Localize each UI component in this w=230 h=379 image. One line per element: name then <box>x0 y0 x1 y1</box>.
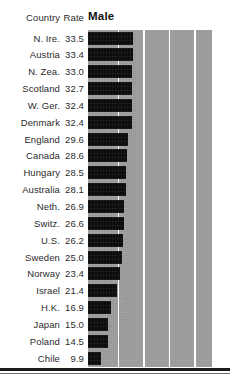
column-header-rate: Rate <box>62 12 84 23</box>
table-row: W. Ger.32.4 <box>0 97 86 114</box>
chart-page: Country Rate Male N. Ire.33.5Austria33.4… <box>0 0 230 379</box>
country-name: Denmark <box>0 117 60 128</box>
country-label-column: N. Ire.33.5Austria33.4N. Zea.33.0Scotlan… <box>0 30 86 370</box>
country-name: Japan <box>0 319 60 330</box>
bar-texture <box>88 99 132 112</box>
gridline-0 <box>118 30 120 367</box>
bar <box>88 335 108 348</box>
country-name: Sweden <box>0 252 60 263</box>
table-row: Japan15.0 <box>0 316 86 333</box>
country-name: Neth. <box>0 201 60 212</box>
rate-value: 21.4 <box>62 285 84 296</box>
gridline-3 <box>194 30 196 367</box>
bar <box>88 301 111 314</box>
country-name: U.S. <box>0 235 60 246</box>
bar <box>88 65 132 78</box>
bar <box>88 99 132 112</box>
table-row: England29.6 <box>0 131 86 148</box>
rate-value: 28.1 <box>62 184 84 195</box>
country-name: N. Ire. <box>0 33 60 44</box>
table-header: Country Rate Male <box>0 12 230 26</box>
country-name: Norway <box>0 268 60 279</box>
rate-value: 32.7 <box>62 83 84 94</box>
bar-texture <box>88 217 124 230</box>
column-header-country: Country <box>0 12 60 23</box>
bar <box>88 234 123 247</box>
bar-texture <box>88 234 123 247</box>
bar-texture <box>88 318 108 331</box>
table-row: H.K.16.9 <box>0 300 86 317</box>
table-row: Australia28.1 <box>0 182 86 199</box>
gridline-1 <box>143 30 145 367</box>
bar-texture <box>88 82 132 95</box>
bar <box>88 318 108 331</box>
rate-value: 26.9 <box>62 201 84 212</box>
bar-texture <box>88 251 122 264</box>
bar <box>88 48 133 61</box>
bar <box>88 133 128 146</box>
country-name: Chile <box>0 353 60 364</box>
bar <box>88 200 124 213</box>
table-row: N. Ire.33.5 <box>0 30 86 47</box>
rate-value: 33.4 <box>62 49 84 60</box>
table-row: Canada28.6 <box>0 148 86 165</box>
country-name: Australia <box>0 184 60 195</box>
rate-value: 14.5 <box>62 336 84 347</box>
chart-title-male: Male <box>88 10 114 22</box>
bar-texture <box>88 65 132 78</box>
bottom-divider <box>0 368 230 371</box>
rate-value: 28.6 <box>62 150 84 161</box>
country-name: W. Ger. <box>0 100 60 111</box>
rate-value: 32.4 <box>62 117 84 128</box>
bar-texture <box>88 335 108 348</box>
table-row: Switz.26.6 <box>0 215 86 232</box>
bar <box>88 82 132 95</box>
bar-texture <box>88 48 133 61</box>
rate-value: 28.5 <box>62 167 84 178</box>
table-row: Israel21.4 <box>0 283 86 300</box>
rate-value: 16.9 <box>62 302 84 313</box>
bar <box>88 352 101 365</box>
country-name: N. Zea. <box>0 66 60 77</box>
rate-value: 33.5 <box>62 33 84 44</box>
bar-texture <box>88 166 126 179</box>
gridline-2 <box>169 30 171 367</box>
bar-texture <box>88 149 127 162</box>
bar <box>88 267 120 280</box>
table-row: Poland14.5 <box>0 333 86 350</box>
country-name: Hungary <box>0 167 60 178</box>
rate-value: 32.4 <box>62 100 84 111</box>
country-name: Austria <box>0 49 60 60</box>
country-name: Israel <box>0 285 60 296</box>
panel-texture <box>88 30 212 367</box>
table-row: Chile9.9 <box>0 350 86 367</box>
bar-texture <box>88 32 133 45</box>
rate-value: 9.9 <box>62 353 84 364</box>
table-row: Austria33.4 <box>0 47 86 64</box>
rate-value: 25.0 <box>62 252 84 263</box>
table-row: U.S.26.2 <box>0 232 86 249</box>
bar-texture <box>88 301 111 314</box>
bar <box>88 149 127 162</box>
table-row: Sweden25.0 <box>0 249 86 266</box>
table-row: Denmark32.4 <box>0 114 86 131</box>
bar <box>88 183 126 196</box>
bar-texture <box>88 267 120 280</box>
rate-value: 15.0 <box>62 319 84 330</box>
table-row: N. Zea.33.0 <box>0 64 86 81</box>
bar <box>88 217 124 230</box>
bar <box>88 32 133 45</box>
rate-value: 33.0 <box>62 66 84 77</box>
rate-value: 29.6 <box>62 134 84 145</box>
bar-texture <box>88 352 101 365</box>
bar-chart-panel <box>88 30 212 367</box>
country-name: England <box>0 134 60 145</box>
bar <box>88 166 126 179</box>
country-name: Scotland <box>0 83 60 94</box>
rate-value: 26.6 <box>62 218 84 229</box>
panel-speckle <box>88 30 212 367</box>
bar <box>88 116 132 129</box>
rate-value: 23.4 <box>62 268 84 279</box>
country-name: Switz. <box>0 218 60 229</box>
country-name: Canada <box>0 150 60 161</box>
